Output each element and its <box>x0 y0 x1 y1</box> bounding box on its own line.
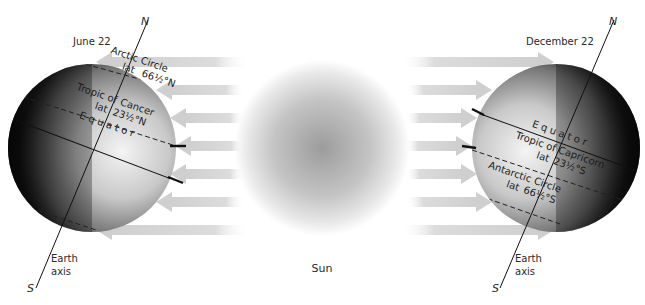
axis-label-line2: axis <box>51 266 71 277</box>
date-label: June 22 <box>72 36 111 47</box>
north-label: N <box>141 15 149 28</box>
south-label: S <box>27 282 34 295</box>
arrow <box>405 136 472 156</box>
axis-label-line1: Earth <box>515 253 542 264</box>
sun: Sun <box>234 60 410 275</box>
axis-label-line2: axis <box>515 266 535 277</box>
north-label: N <box>609 15 617 28</box>
south-label: S <box>492 282 499 295</box>
sun-label: Sun <box>312 262 333 275</box>
seasons-diagram: Sun <box>0 0 645 305</box>
arrow <box>405 192 492 212</box>
arrow <box>405 164 477 184</box>
arrow <box>405 108 477 128</box>
date-label: December 22 <box>526 36 594 47</box>
arrow <box>170 108 245 128</box>
sun-disc <box>234 60 410 236</box>
arrow <box>405 80 492 100</box>
arrow <box>156 192 245 212</box>
axis-label-line1: Earth <box>51 253 78 264</box>
arrow <box>170 164 245 184</box>
